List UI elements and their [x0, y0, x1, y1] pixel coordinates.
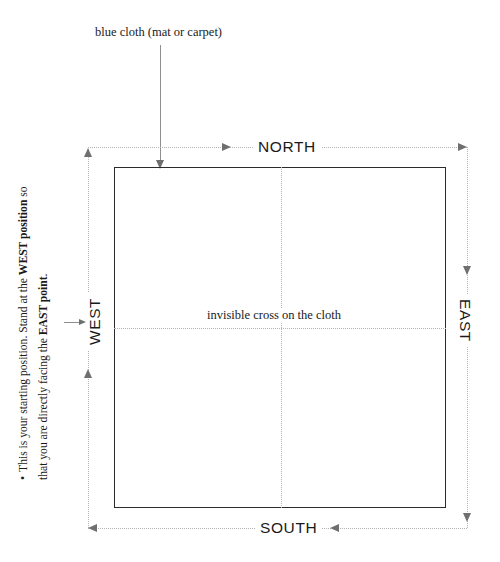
- direction-label-south: SOUTH: [255, 519, 322, 537]
- direction-label-east: EAST: [456, 294, 474, 347]
- note-bullet-icon: •: [17, 476, 30, 480]
- cross-line-vertical: [281, 167, 282, 508]
- flow-arrow-south-right-icon: [330, 524, 339, 532]
- west-pointer-line: [64, 322, 80, 323]
- flow-arrow-north-left-icon: [222, 143, 231, 151]
- flow-arrow-west-lower-icon: [84, 369, 92, 378]
- direction-label-west: WEST: [86, 293, 104, 350]
- direction-label-north: NORTH: [253, 138, 321, 156]
- diagram-canvas: blue cloth (mat or carpet) invisible cro…: [0, 0, 500, 562]
- blue-cloth-caption: blue cloth (mat or carpet): [95, 25, 222, 39]
- note-text-bold-west: WEST position: [17, 200, 30, 276]
- flow-arrow-east-upper-icon: [463, 266, 471, 275]
- cloth-square: [114, 167, 446, 508]
- flow-arrow-west-upper-icon: [84, 148, 92, 157]
- note-text-part3: .: [37, 273, 50, 276]
- starting-position-note: •This is your starting position. Stand a…: [14, 0, 48, 170]
- invisible-cross-caption: invisible cross on the cloth: [203, 308, 345, 323]
- cross-line-horizontal: [114, 328, 446, 329]
- flow-arrow-south-left-icon: [88, 524, 97, 532]
- note-text-part1: This is your starting position. Stand at…: [17, 275, 30, 472]
- flow-arrow-north-right-icon: [458, 143, 467, 151]
- flow-arrow-east-lower-icon: [463, 513, 471, 522]
- west-pointer-arrowhead-icon: [79, 319, 86, 325]
- note-text-bold-east: EAST point: [37, 276, 50, 335]
